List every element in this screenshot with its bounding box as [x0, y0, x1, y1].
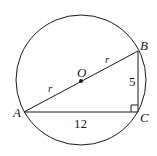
right-angle-marker: [131, 105, 138, 112]
label-c: C: [140, 110, 149, 125]
label-a: A: [12, 105, 21, 120]
label-bc: 5: [129, 74, 136, 89]
label-o: O: [77, 65, 87, 80]
label-b: B: [140, 38, 148, 53]
geometry-diagram: O B A C r r 5 12: [0, 0, 157, 156]
label-r-ao: r: [48, 82, 53, 94]
label-ac: 12: [74, 116, 87, 131]
label-r-ob: r: [105, 53, 110, 65]
